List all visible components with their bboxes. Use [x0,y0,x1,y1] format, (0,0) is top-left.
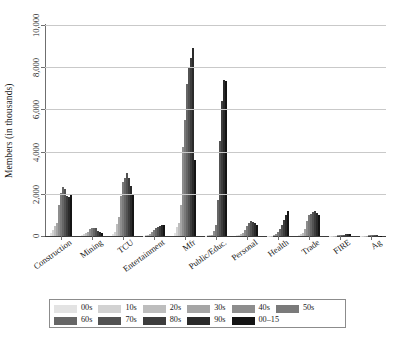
legend-label: 20s [170,304,181,312]
x-axis-tick-label: Mining [78,238,104,260]
bar[interactable] [225,81,227,236]
y-axis-tick-label: 10,000 [32,9,41,41]
x-axis-tick-label: Ag [369,238,383,251]
legend-swatch [232,317,255,325]
legend-swatch [143,305,166,313]
legend-swatch [187,317,210,325]
bar[interactable] [70,195,72,236]
legend-label: 90s [214,316,225,324]
gridline [45,152,386,153]
y-axis-tick-mark [41,236,45,237]
bar[interactable] [380,236,382,237]
legend-item[interactable]: 00–15 [232,315,279,326]
bar-group [143,25,165,236]
y-axis-tick-label: 4,000 [32,136,41,168]
y-axis-title: Members (in thousands) [2,26,16,236]
gridline [45,194,386,195]
legend-label: 70s [125,316,136,324]
legend-item[interactable]: 80s [143,315,181,326]
legend-row: 00s10s20s30s40s50s [54,303,341,314]
chart-legend: 00s10s20s30s40s50s60s70s80s90s00–15 [49,299,346,328]
x-axis-tick-label: Health [266,238,290,258]
gridline [45,25,386,26]
legend-item[interactable]: 30s [187,303,225,314]
y-axis-tick-mark [41,152,45,153]
bar-group [298,25,320,236]
x-axis-tick-label: Trade [300,238,321,257]
gridline [45,67,386,68]
bar[interactable] [318,215,320,236]
bar-group [360,25,382,236]
y-axis-tick-mark [41,194,45,195]
legend-swatch [98,317,121,325]
legend-label: 80s [170,316,181,324]
bar[interactable] [287,211,289,236]
legend-swatch [187,305,210,313]
bar-group [174,25,196,236]
legend-swatch [143,317,166,325]
gridline [45,109,386,110]
legend-swatch [276,305,299,313]
x-axis-tick-label: FIRE [331,238,351,256]
bar-group [205,25,227,236]
legend-item[interactable]: 60s [54,315,92,326]
legend-item[interactable]: 00s [54,303,92,314]
legend-swatch [232,305,255,313]
legend-label: 10s [125,304,136,312]
bar[interactable] [194,160,196,236]
legend-swatch [54,317,77,325]
plot-area: Members (in thousands) 02,0004,0006,0008… [0,0,394,292]
bars-layer [45,25,386,236]
legend-item[interactable]: 70s [98,315,136,326]
bar[interactable] [132,194,134,236]
bar-group [112,25,134,236]
chart-figure: Members (in thousands) 02,0004,0006,0008… [0,0,394,346]
axes [45,25,386,236]
legend-label: 30s [214,304,225,312]
y-axis-tick-label: 8,000 [32,51,41,83]
legend-label: 00s [81,304,92,312]
y-axis-tick-mark [41,109,45,110]
y-axis-tick-label: 6,000 [32,93,41,125]
legend-item[interactable]: 50s [276,303,314,314]
x-axis-tick-label: TCU [116,238,135,255]
legend-swatch [54,305,77,313]
bar[interactable] [163,225,165,236]
x-axis-tick-label: Personal [230,238,259,262]
bar-group [267,25,289,236]
legend-item[interactable]: 20s [143,303,181,314]
legend-label: 60s [81,316,92,324]
y-axis-tick-mark [41,25,45,26]
bar[interactable] [101,233,103,236]
bar-group [50,25,72,236]
legend-item[interactable]: 40s [232,303,270,314]
y-axis-tick-label: 2,000 [32,178,41,210]
bar[interactable] [349,234,351,236]
legend-item[interactable]: 10s [98,303,136,314]
y-axis-tick-mark [41,67,45,68]
y-axis-tick-labels: 02,0004,0006,0008,00010,000 [16,19,42,241]
bar-group [81,25,103,236]
legend-item[interactable]: 90s [187,315,225,326]
bar-group [236,25,258,236]
legend-swatch [98,305,121,313]
legend-row: 60s70s80s90s00–15 [54,315,341,326]
legend-label: 40s [259,304,270,312]
x-axis-tick-label: Mfr [181,238,197,253]
x-axis-tick-labels: ConstructionMiningTCUEntertainmentMfrPub… [45,238,394,292]
legend-label: 00–15 [259,316,279,324]
legend-label: 50s [303,304,314,312]
bar[interactable] [256,225,258,236]
y-axis-tick-label: 0 [32,220,41,252]
bar-group [329,25,351,236]
